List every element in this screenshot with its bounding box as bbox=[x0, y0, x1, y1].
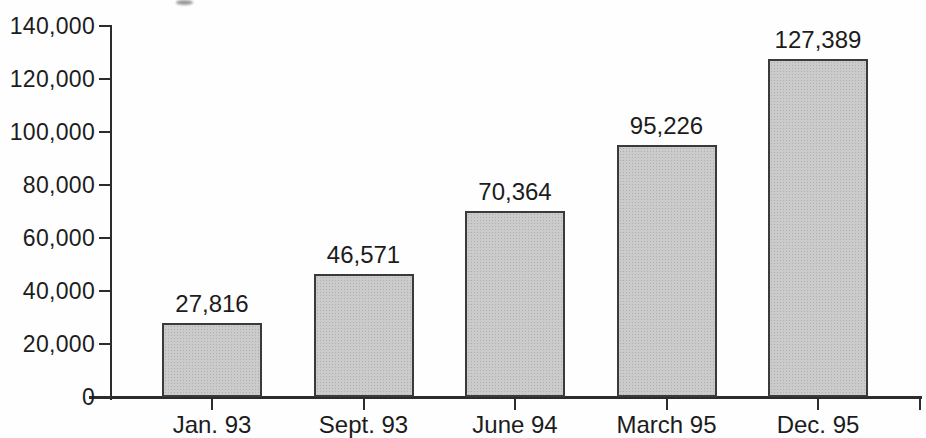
y-tick bbox=[99, 343, 112, 345]
y-tick bbox=[99, 78, 112, 80]
bar-value-label: 70,364 bbox=[435, 178, 595, 206]
x-category-label: June 94 bbox=[435, 412, 595, 438]
y-tick-label: 140,000 bbox=[0, 13, 95, 39]
x-category-label: March 95 bbox=[587, 412, 747, 438]
bar-value-label: 27,816 bbox=[132, 290, 292, 318]
y-tick bbox=[99, 290, 112, 292]
bar bbox=[465, 211, 565, 397]
y-tick-label: 60,000 bbox=[0, 225, 95, 251]
bar-value-label: 95,226 bbox=[587, 112, 747, 140]
bar bbox=[314, 274, 414, 397]
y-tick bbox=[99, 184, 112, 186]
x-category-label: Sept. 93 bbox=[284, 412, 444, 438]
x-tick bbox=[363, 398, 365, 410]
y-tick-label: 0 bbox=[0, 384, 95, 410]
y-tick bbox=[99, 396, 112, 398]
y-tick bbox=[99, 25, 112, 27]
bar-value-label: 46,571 bbox=[284, 241, 444, 269]
bar-chart: 020,00040,00060,00080,000100,000120,0001… bbox=[0, 0, 926, 438]
y-tick-label: 80,000 bbox=[0, 172, 95, 198]
y-tick-label: 120,000 bbox=[0, 66, 95, 92]
x-category-label: Jan. 93 bbox=[132, 412, 292, 438]
x-tick bbox=[666, 398, 668, 410]
y-tick-label: 100,000 bbox=[0, 119, 95, 145]
x-tick bbox=[817, 398, 819, 410]
y-tick-label: 40,000 bbox=[0, 278, 95, 304]
x-tick bbox=[211, 398, 213, 410]
y-tick bbox=[99, 131, 112, 133]
x-tick bbox=[514, 398, 516, 410]
y-tick-label: 20,000 bbox=[0, 331, 95, 357]
bar bbox=[617, 145, 717, 397]
cropped-text-artifact bbox=[176, 0, 193, 5]
x-category-label: Dec. 95 bbox=[738, 412, 898, 438]
bar bbox=[162, 323, 262, 397]
y-tick bbox=[99, 237, 112, 239]
bar bbox=[768, 59, 868, 397]
bar-value-label: 127,389 bbox=[738, 26, 898, 54]
x-axis-end-tick bbox=[919, 398, 921, 410]
